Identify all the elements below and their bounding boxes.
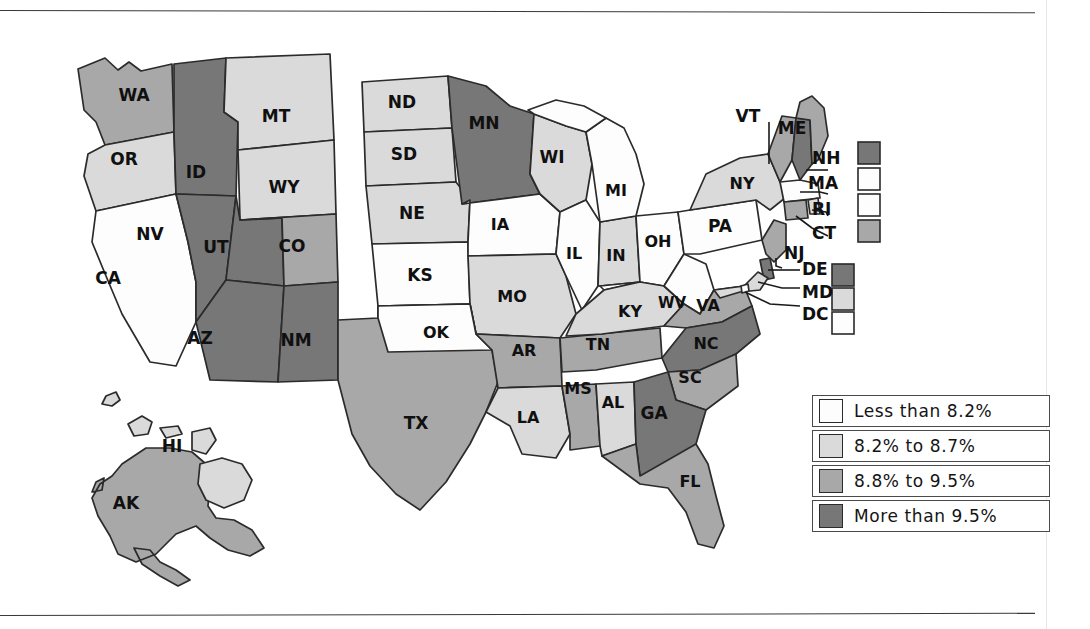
northeast-swatch-stack bbox=[858, 142, 880, 242]
callout-label-ME: ME bbox=[778, 118, 807, 138]
callout-label-MD: MD bbox=[802, 282, 833, 302]
state-label-WI: WI bbox=[539, 147, 564, 167]
legend-swatch-1 bbox=[819, 434, 843, 458]
ne-swatch-nh bbox=[858, 142, 880, 164]
callout-label-CT: CT bbox=[812, 223, 836, 243]
legend-label-3: More than 9.5% bbox=[854, 506, 997, 526]
state-label-AL: AL bbox=[602, 393, 625, 412]
state-label-IN: IN bbox=[606, 246, 625, 265]
state-label-CA: CA bbox=[95, 268, 121, 288]
state-label-ND: ND bbox=[388, 92, 416, 112]
ma-swatch-md bbox=[832, 288, 854, 310]
hawaii-island-5[interactable] bbox=[198, 458, 252, 508]
state-MI[interactable] bbox=[586, 118, 644, 222]
state-label-OR: OR bbox=[110, 149, 138, 169]
state-label-GA: GA bbox=[640, 403, 668, 423]
state-IA[interactable] bbox=[462, 194, 560, 256]
state-label-NM: NM bbox=[280, 330, 311, 350]
state-MT[interactable] bbox=[224, 54, 334, 150]
map-legend: Less than 8.2% 8.2% to 8.7% 8.8% to 9.5%… bbox=[812, 395, 1050, 535]
state-label-AR: AR bbox=[512, 341, 537, 360]
state-label-KS: KS bbox=[407, 265, 432, 285]
legend-label-0: Less than 8.2% bbox=[854, 401, 992, 421]
state-label-ID: ID bbox=[186, 162, 206, 182]
state-label-OK: OK bbox=[423, 323, 450, 342]
legend-row[interactable]: 8.2% to 8.7% bbox=[812, 430, 1050, 462]
legend-row[interactable]: Less than 8.2% bbox=[812, 395, 1050, 427]
state-CT[interactable] bbox=[784, 200, 808, 220]
ne-swatch-ct bbox=[858, 220, 880, 242]
ne-swatch-ri bbox=[858, 194, 880, 216]
state-label-HI: HI bbox=[162, 436, 183, 456]
legend-swatch-0 bbox=[819, 399, 843, 423]
state-label-WY: WY bbox=[268, 177, 300, 197]
ma-swatch-dc bbox=[832, 312, 854, 334]
legend-label-2: 8.8% to 9.5% bbox=[854, 471, 975, 491]
callout-label-MA: MA bbox=[808, 173, 839, 193]
state-label-OH: OH bbox=[645, 232, 672, 251]
state-label-MO: MO bbox=[497, 287, 527, 306]
state-label-VA: VA bbox=[696, 296, 720, 315]
hawaii-island-2[interactable] bbox=[128, 416, 152, 436]
ma-swatch-de bbox=[832, 264, 854, 286]
legend-swatch-2 bbox=[819, 469, 843, 493]
state-label-NC: NC bbox=[693, 334, 718, 353]
callout-label-VT: VT bbox=[736, 106, 761, 126]
hawaii-island-4[interactable] bbox=[192, 428, 216, 454]
legend-label-1: 8.2% to 8.7% bbox=[854, 436, 975, 456]
bottom-divider-rule bbox=[0, 613, 1035, 616]
state-label-MN: MN bbox=[468, 113, 499, 133]
state-label-IA: IA bbox=[491, 215, 510, 234]
state-label-TX: TX bbox=[404, 413, 429, 433]
state-label-TN: TN bbox=[586, 335, 610, 354]
legend-swatch-3 bbox=[819, 504, 843, 528]
ne-swatch-ma bbox=[858, 168, 880, 190]
callout-label-DE: DE bbox=[802, 259, 828, 279]
callout-label-DC: DC bbox=[802, 304, 829, 324]
state-label-MS: MS bbox=[564, 379, 591, 398]
top-divider-rule bbox=[0, 10, 1035, 13]
state-label-KY: KY bbox=[618, 302, 642, 321]
state-MN[interactable] bbox=[448, 76, 540, 204]
state-label-CO: CO bbox=[279, 236, 306, 256]
state-label-LA: LA bbox=[517, 408, 540, 427]
hawaii-island-1[interactable] bbox=[102, 392, 120, 406]
state-label-NE: NE bbox=[399, 203, 425, 223]
state-label-MI: MI bbox=[605, 181, 627, 200]
state-label-WA: WA bbox=[118, 85, 150, 105]
state-DC[interactable] bbox=[741, 284, 749, 293]
midatlantic-swatch-stack bbox=[832, 264, 854, 334]
state-label-AK: AK bbox=[113, 493, 140, 513]
callout-label-RI: RI bbox=[812, 199, 831, 219]
state-label-NV: NV bbox=[136, 224, 164, 244]
state-label-AZ: AZ bbox=[187, 328, 212, 348]
state-label-SD: SD bbox=[391, 144, 417, 164]
state-label-MT: MT bbox=[262, 106, 291, 126]
state-label-SC: SC bbox=[678, 368, 701, 387]
state-label-FL: FL bbox=[679, 472, 700, 491]
state-label-IL: IL bbox=[566, 244, 582, 263]
callout-label-NH: NH bbox=[812, 148, 840, 168]
legend-row[interactable]: More than 9.5% bbox=[812, 500, 1050, 532]
state-label-PA: PA bbox=[708, 216, 733, 236]
legend-row[interactable]: 8.8% to 9.5% bbox=[812, 465, 1050, 497]
state-label-NY: NY bbox=[730, 174, 755, 193]
state-NJ[interactable] bbox=[762, 220, 786, 262]
state-label-UT: UT bbox=[203, 237, 229, 257]
state-label-WV: WV bbox=[658, 294, 687, 312]
